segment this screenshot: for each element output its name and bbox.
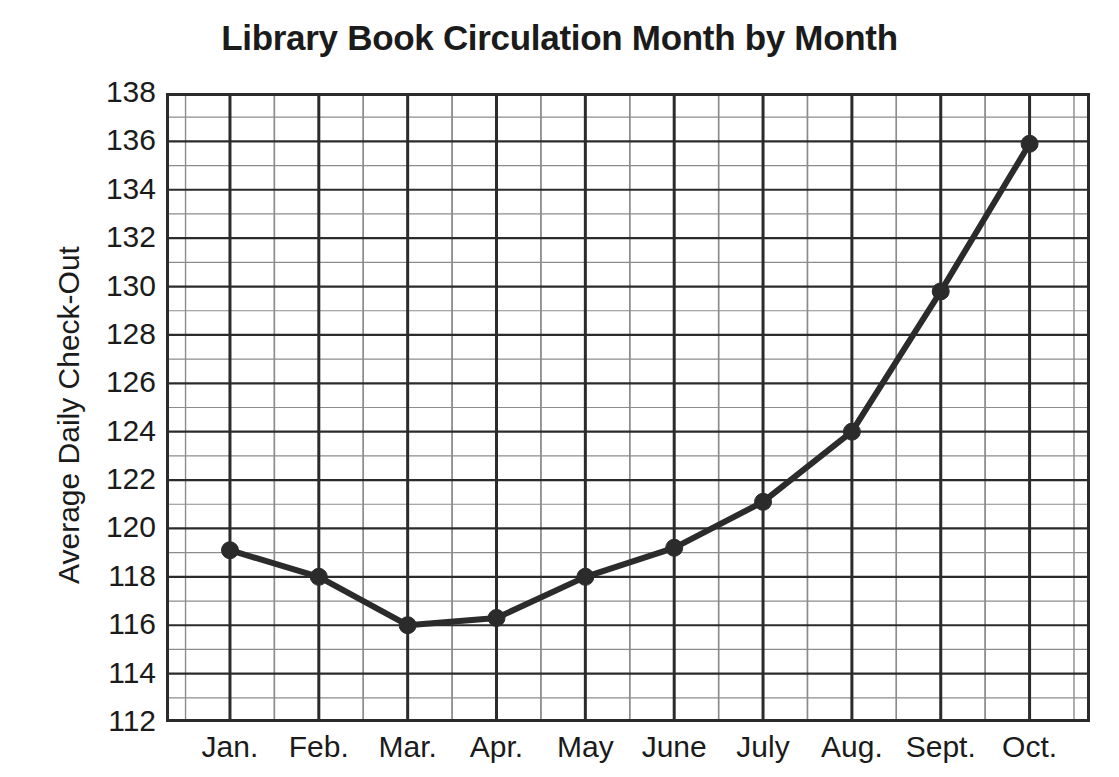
y-tick-label: 120	[76, 512, 156, 542]
x-tick-label: Oct.	[950, 730, 1110, 764]
y-tick-label: 122	[76, 464, 156, 494]
chart-page: Library Book Circulation Month by Month …	[0, 0, 1119, 777]
y-tick-label: 132	[76, 222, 156, 252]
y-axis-tick-labels: 1381361341321301281261241221201181161141…	[70, 93, 156, 722]
y-tick-label: 116	[76, 609, 156, 639]
y-tick-label: 114	[76, 658, 156, 688]
y-tick-label: 130	[76, 271, 156, 301]
chart-title: Library Book Circulation Month by Month	[0, 18, 1119, 58]
y-tick-label: 136	[76, 125, 156, 155]
y-tick-label: 126	[76, 367, 156, 397]
y-tick-label: 124	[76, 416, 156, 446]
y-tick-label: 128	[76, 319, 156, 349]
line-chart-svg	[166, 93, 1090, 722]
plot-area	[166, 93, 1090, 722]
y-tick-label: 112	[76, 706, 156, 736]
y-tick-label: 118	[76, 561, 156, 591]
x-axis-tick-labels: Jan.Feb.Mar.Apr.MayJuneJulyAug.Sept.Oct.	[166, 730, 1090, 774]
horizontal-minor-gridlines	[166, 117, 1090, 698]
y-tick-label: 138	[76, 77, 156, 107]
y-tick-label: 134	[76, 174, 156, 204]
